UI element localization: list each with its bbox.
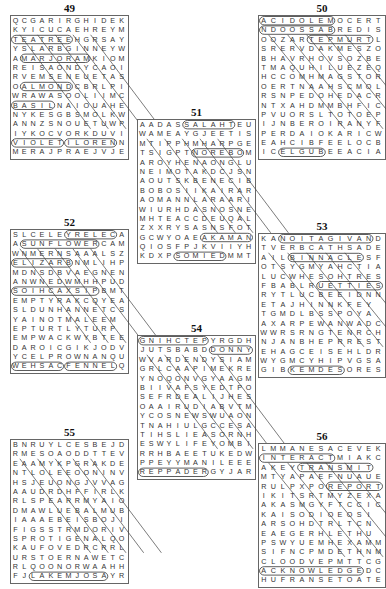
grid-letter: Y <box>209 374 218 383</box>
grid-row: WAMEAYGJEETIS <box>138 129 255 138</box>
grid-letter: U <box>108 277 117 286</box>
grid-letter: R <box>259 290 269 299</box>
grid-letter: O <box>235 223 244 232</box>
grid-letter: R <box>226 186 235 195</box>
grid-letter: C <box>297 547 307 556</box>
grid-letter: U <box>46 25 55 34</box>
grid-letter: E <box>209 214 218 223</box>
grid-letter: I <box>156 139 165 148</box>
grid-letter: W <box>316 319 326 328</box>
grid-letter: N <box>29 268 38 277</box>
grid-letter: E <box>156 458 165 467</box>
grid-letter: S <box>73 110 82 119</box>
grid-row: RRHBAEETUKEDW <box>138 449 255 458</box>
grid-letter: O <box>38 343 47 352</box>
grid-letter: A <box>278 500 288 509</box>
grid-letter: U <box>316 281 326 290</box>
grid-letter: S <box>335 365 345 374</box>
grid-letter: A <box>82 506 91 515</box>
grid-letter: T <box>259 243 269 252</box>
grid-letter: G <box>316 328 326 337</box>
grid-letter: Q <box>373 63 383 72</box>
grid-letter: R <box>11 449 20 458</box>
grid-letter: D <box>73 449 82 458</box>
grid-letter: L <box>20 258 29 267</box>
grid-letter: H <box>147 214 156 223</box>
grid-letter: O <box>209 158 218 167</box>
grid-letter: I <box>218 242 227 251</box>
grid-letter: L <box>20 305 29 314</box>
grid-letter: A <box>307 82 317 91</box>
grid-letter: D <box>209 167 218 176</box>
grid-letter: D <box>147 251 156 260</box>
grid-letter: W <box>156 233 165 242</box>
grid-letter: A <box>288 35 298 44</box>
grid-letter: O <box>316 91 326 100</box>
grid-letter: P <box>307 482 317 491</box>
grid-letter: A <box>316 82 326 91</box>
grid-letter: K <box>200 242 209 251</box>
grid-letter: R <box>269 44 279 53</box>
grid-letter: A <box>46 258 55 267</box>
grid-letter: A <box>29 91 38 100</box>
grid-letter: C <box>269 566 279 575</box>
grid-row: LUCWHESOHTRES <box>259 272 385 281</box>
grid-letter: U <box>278 110 288 119</box>
grid-letter: T <box>244 223 253 232</box>
grid-letter: S <box>165 345 174 354</box>
grid-letter: E <box>147 392 156 401</box>
grid-letter: I <box>11 515 20 524</box>
grid-letter: S <box>288 510 298 519</box>
grid-letter: N <box>99 268 108 277</box>
grid-letter: E <box>307 538 317 547</box>
grid-letter: H <box>108 258 117 267</box>
grid-letter: P <box>288 91 298 100</box>
grid-letter: L <box>108 361 117 370</box>
grid-letter: A <box>326 444 336 453</box>
grid-letter: N <box>55 82 64 91</box>
grid-letter: A <box>226 195 235 204</box>
grid-letter: A <box>20 82 29 91</box>
grid-letter: N <box>55 249 64 258</box>
grid-letter: S <box>364 356 374 365</box>
grid-letter: M <box>138 139 147 148</box>
grid-letter: R <box>335 337 345 346</box>
grid-letter: N <box>64 72 73 81</box>
grid-letter: U <box>11 553 20 562</box>
grid-letter: T <box>200 449 209 458</box>
grid-letter: O <box>259 35 269 44</box>
grid-letter: R <box>354 328 364 337</box>
grid-letter: V <box>55 129 64 138</box>
grid-letter: H <box>297 300 307 309</box>
puzzle-number: 54 <box>137 322 256 334</box>
grid-letter: I <box>259 147 269 156</box>
grid-letter: R <box>91 35 100 44</box>
grid-letter: M <box>38 82 47 91</box>
grid-letter: R <box>209 148 218 157</box>
grid-row: DMAWLUEBALMUB <box>11 506 128 515</box>
grid-letter: N <box>326 300 336 309</box>
grid-row: KDXPSOMIEDMMT <box>138 251 255 260</box>
grid-letter: C <box>297 347 307 356</box>
grid-letter: M <box>73 277 82 286</box>
grid-letter: A <box>259 566 269 575</box>
grid-letter: L <box>244 214 253 223</box>
grid-letter: D <box>11 506 20 515</box>
grid-letter: U <box>269 482 279 491</box>
grid-letter: A <box>235 186 244 195</box>
grid-letter: H <box>297 101 307 110</box>
grid-letter: L <box>326 63 336 72</box>
grid-letter: L <box>99 82 108 91</box>
grid-row: HUFRANSETOATE <box>259 575 385 584</box>
grid-letter: D <box>218 251 227 260</box>
grid-letter: U <box>156 205 165 214</box>
grid-letter: C <box>345 500 355 509</box>
grid-letter: E <box>335 538 345 547</box>
grid-letter: I <box>55 16 64 25</box>
grid-letter: A <box>156 402 165 411</box>
grid-letter: H <box>326 82 336 91</box>
grid-letter: T <box>269 472 279 481</box>
grid-letter: M <box>20 449 29 458</box>
grid-letter: S <box>82 515 91 524</box>
grid-letter: G <box>64 44 73 53</box>
